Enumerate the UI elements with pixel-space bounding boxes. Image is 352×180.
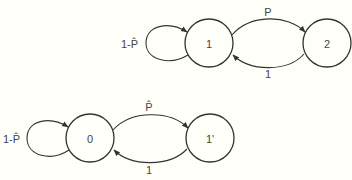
edge-1-to-2-label: P	[264, 6, 271, 18]
state-node-2-label: 2	[324, 38, 330, 50]
state-node-1-label: 1	[206, 38, 212, 50]
edge-2-to-1-label: 1	[265, 68, 271, 80]
state-diagram-canvas: 1-P̂ 1 2 P 1 1-P̂ 0 1' P̂ 1	[0, 0, 352, 180]
edge-1-prime-to-0-label: 1	[146, 164, 152, 176]
self-loop-label-node-0: 1-P̂	[3, 132, 20, 145]
edge-0-to-1-prime-label: P̂	[145, 100, 152, 113]
state-node-1-prime-label: 1'	[206, 133, 214, 145]
diagram-svg: 1-P̂ 1 2 P 1 1-P̂ 0 1' P̂ 1	[0, 0, 352, 180]
self-loop-label-node-1: 1-P̂	[121, 37, 138, 50]
state-node-0-label: 0	[87, 133, 93, 145]
